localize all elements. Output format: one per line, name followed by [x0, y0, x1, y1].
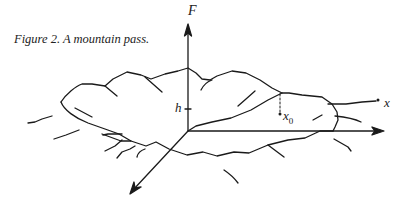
- f-axis: [185, 24, 192, 130]
- x0-label-sub: 0: [289, 116, 294, 126]
- left-ridge: [75, 108, 92, 117]
- terrain-4: [105, 140, 122, 151]
- x0-label: x0: [283, 108, 293, 126]
- terrain-6: [137, 149, 145, 157]
- spur-4: [238, 91, 255, 106]
- f-axis-label: F: [188, 3, 197, 19]
- spur-2: [145, 77, 162, 92]
- right-stroke-1: [335, 116, 361, 122]
- figure-caption: Figure 2. A mountain pass.: [14, 32, 149, 47]
- terrain-1: [28, 116, 52, 123]
- terrain-7: [102, 134, 131, 141]
- saddle-line: [188, 93, 282, 131]
- spur-5: [313, 115, 322, 120]
- ridge-back: [61, 68, 338, 131]
- spur-3: [201, 80, 212, 90]
- right-stroke-2: [334, 139, 351, 151]
- x0-point: [279, 113, 282, 116]
- x-point: [377, 99, 380, 102]
- terrain-5: [117, 146, 135, 158]
- spur-1: [105, 86, 117, 96]
- horizontal-axis: [188, 127, 384, 135]
- diagonal-axis: [130, 131, 188, 194]
- front-spur-1: [268, 145, 284, 157]
- path-to-x: [328, 101, 376, 104]
- h-label: h: [175, 100, 182, 116]
- mountain-pass-figure: Figure 2. A mountain pass. F h x0 x: [0, 0, 407, 208]
- x-label: x: [384, 95, 390, 111]
- front-spur-2: [224, 170, 238, 183]
- terrain-2: [54, 130, 79, 139]
